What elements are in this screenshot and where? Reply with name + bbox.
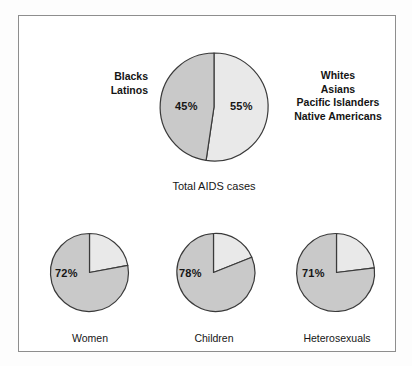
legend-item-blacks: Blacks <box>58 70 148 84</box>
women-pie-label: 72% <box>55 267 78 279</box>
legend-item-pacific-islanders: Pacific Islanders <box>278 96 398 110</box>
figure-container: 45% 55% Blacks Latinos Whites Asians Pac… <box>0 0 412 366</box>
heterosexuals-pie-label: 71% <box>302 267 325 279</box>
women-pie-caption: Women <box>49 332 131 344</box>
main-pie-caption: Total AIDS cases <box>154 180 274 192</box>
heterosexuals-pie-caption: Heterosexuals <box>290 332 384 344</box>
children-pie-caption: Children <box>173 332 255 344</box>
legend-item-latinos: Latinos <box>58 84 148 98</box>
pie-slice-light-29 <box>337 234 375 273</box>
legend-item-asians: Asians <box>278 83 398 97</box>
children-pie-label: 78% <box>179 267 202 279</box>
main-pie-label-55: 55% <box>230 100 253 112</box>
main-pie-left-legend: Blacks Latinos <box>58 70 148 97</box>
legend-item-whites: Whites <box>278 69 398 83</box>
main-pie-right-legend: Whites Asians Pacific Islanders Native A… <box>278 69 398 123</box>
legend-item-native-americans: Native Americans <box>278 110 398 124</box>
main-pie-label-45: 45% <box>175 100 198 112</box>
